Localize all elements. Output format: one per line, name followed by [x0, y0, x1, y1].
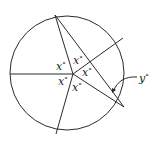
circle-and-chords — [10, 15, 137, 134]
label-y: y° — [138, 72, 149, 85]
label-x-right: x° — [82, 66, 92, 79]
label-x-upper-left: x° — [56, 60, 66, 73]
circle — [10, 16, 124, 130]
chord-center-to-lower-right — [73, 74, 124, 107]
y-pointer-arrow — [114, 77, 137, 90]
geometry-diagram: x° x° x° x° x° y° — [0, 0, 161, 141]
label-x-lower-right: x° — [72, 81, 82, 94]
label-x-lower-left: x° — [58, 75, 68, 88]
